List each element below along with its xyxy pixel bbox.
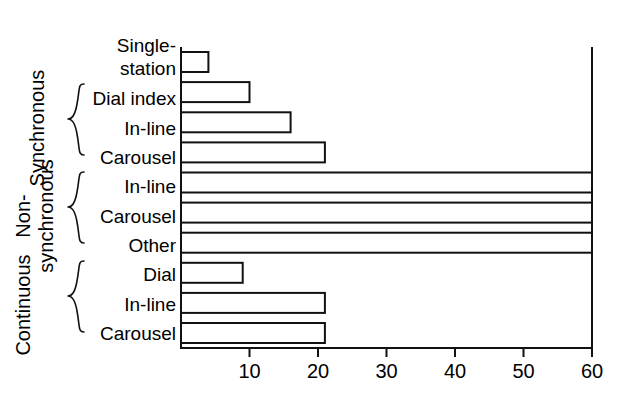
category-label-dial-index: Dial index — [93, 88, 177, 109]
bar-0 — [181, 52, 208, 72]
x-tick-label-60: 60 — [581, 360, 603, 382]
category-label-single-station-line1: Single- — [117, 35, 176, 56]
category-label-single-station-line2: station — [120, 58, 176, 79]
brace-non-synchronous — [68, 172, 84, 243]
category-label-carousel-nonsync: Carousel — [100, 206, 176, 227]
category-label-in-line-sync: In-line — [124, 118, 176, 139]
bar-4 — [181, 173, 592, 193]
x-tick-label-10: 10 — [238, 360, 260, 382]
bar-6 — [181, 233, 592, 253]
group-label-non-synchronous-line2: synchronous — [35, 159, 57, 272]
group-label-non-synchronous-line1: Non- — [12, 194, 34, 237]
group-label-continuous-text: Continuous — [12, 254, 34, 355]
x-tick-label-40: 40 — [444, 360, 466, 382]
category-label-dial-continuous: Dial — [143, 264, 176, 285]
x-tick-label-20: 20 — [307, 360, 329, 382]
group-label-continuous: Continuous — [12, 254, 34, 355]
category-label-carousel-sync: Carousel — [100, 147, 176, 168]
bar-chart: Synchronous Non- synchronous Continuous … — [0, 0, 621, 409]
bar-7 — [181, 263, 243, 283]
brace-synchronous — [68, 84, 84, 155]
category-label-in-line-nonsync: In-line — [124, 176, 176, 197]
x-axis-ticks: 102030405060 — [238, 348, 603, 382]
chart-container: Synchronous Non- synchronous Continuous … — [0, 0, 621, 409]
x-tick-label-50: 50 — [512, 360, 534, 382]
bar-8 — [181, 293, 325, 313]
category-label-carousel-continuous: Carousel — [100, 323, 176, 344]
bar-2 — [181, 112, 291, 132]
bar-3 — [181, 142, 325, 162]
category-labels: Single- station Dial index In-line Carou… — [93, 35, 177, 344]
category-label-in-line-continuous: In-line — [124, 294, 176, 315]
x-tick-label-30: 30 — [375, 360, 397, 382]
category-label-other-nonsync: Other — [128, 235, 176, 256]
bars-layer — [181, 52, 592, 343]
brace-continuous — [68, 261, 84, 332]
bar-5 — [181, 203, 592, 223]
bar-9 — [181, 323, 325, 343]
bar-1 — [181, 82, 250, 102]
